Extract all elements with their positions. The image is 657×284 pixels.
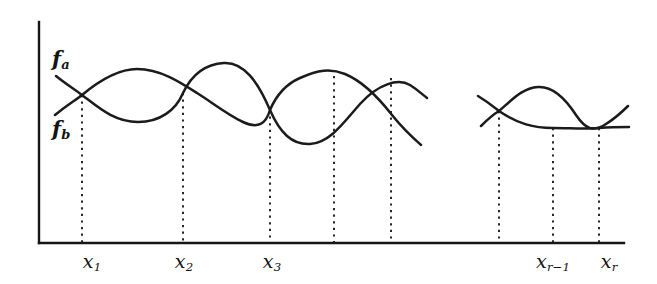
tick-label-x-r-minus-1-subscript: r−1: [547, 260, 570, 274]
figure-canvas: [0, 0, 657, 284]
tick-label-x-1: x1: [83, 252, 101, 274]
curve-label-f-b-base: f: [52, 116, 61, 141]
figure-container: fafbx1x2x3xr−1xr: [0, 0, 657, 284]
curve-label-f-a: fa: [52, 48, 70, 71]
tick-label-x-3: x3: [263, 252, 281, 274]
tick-label-x-r-subscript: r: [612, 260, 618, 274]
curve-label-f-a-base: f: [52, 46, 61, 71]
tick-label-x-r-base: x: [601, 250, 612, 272]
tick-label-x-1-base: x: [83, 250, 94, 272]
tick-label-x-r-minus-1: xr−1: [536, 252, 570, 274]
curve-fa-left: [55, 69, 421, 145]
axes-group: [39, 22, 624, 243]
tick-label-x-2-base: x: [175, 250, 186, 272]
tick-label-x-r-minus-1-base: x: [536, 250, 547, 272]
tick-label-x-3-subscript: 3: [274, 260, 282, 274]
tick-label-x-r: xr: [601, 252, 618, 274]
tick-label-x-1-subscript: 1: [94, 260, 102, 274]
curve-label-f-a-subscript: a: [61, 57, 69, 72]
curve-fa-right: [481, 87, 628, 129]
curve-label-f-b: fb: [52, 118, 70, 141]
curve-label-f-b-subscript: b: [61, 127, 70, 142]
curves-group: [55, 63, 629, 145]
tick-label-x-3-base: x: [263, 250, 274, 272]
drop-lines-group: [82, 76, 599, 243]
tick-label-x-2: x2: [175, 252, 193, 274]
tick-label-x-2-subscript: 2: [186, 260, 194, 274]
